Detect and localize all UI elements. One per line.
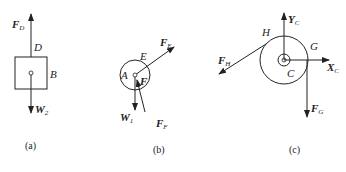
label-C: C <box>287 68 294 79</box>
label-B: B <box>50 69 57 80</box>
caption-a: (a) <box>25 140 36 151</box>
center-point <box>133 73 137 77</box>
caption-c: (c) <box>289 144 300 155</box>
label-FD: FD <box>12 19 24 32</box>
label-A: A <box>121 70 128 81</box>
label-FE: FE <box>160 37 172 50</box>
label-G: G <box>310 41 318 52</box>
label-H: H <box>262 27 270 38</box>
label-D: D <box>34 42 42 53</box>
label-FH: FH <box>218 55 230 68</box>
label-FG: FG <box>311 103 323 116</box>
label-YC: YC <box>288 14 299 27</box>
label-W2: W2 <box>35 104 48 117</box>
center-point <box>29 71 33 75</box>
label-F: F <box>140 76 147 87</box>
label-E: E <box>140 51 147 62</box>
label-FF: FF <box>156 118 168 131</box>
caption-b: (b) <box>153 144 165 155</box>
label-W1: W1 <box>120 112 133 125</box>
label-XC: XC <box>327 62 339 75</box>
